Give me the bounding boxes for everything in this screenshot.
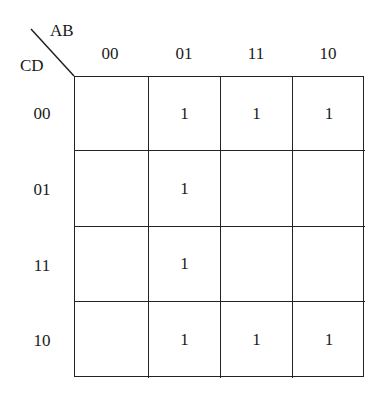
kmap-cell: [75, 227, 149, 302]
kmap-cell: 1: [149, 302, 221, 378]
kmap-cell: [221, 151, 293, 227]
col-label-2: 11: [220, 44, 292, 64]
row-label-0: 00: [22, 104, 62, 124]
kmap-cell: [75, 302, 149, 378]
row-label-3: 10: [22, 331, 62, 351]
kmap-cell: 1: [221, 77, 293, 151]
row-label-1: 01: [22, 180, 62, 200]
col-label-3: 10: [292, 44, 364, 64]
kmap-cell: 1: [293, 77, 365, 151]
col-label-1: 01: [148, 44, 220, 64]
kmap-cell: [293, 151, 365, 227]
row-variable-label: CD: [20, 57, 44, 74]
col-variable-label: AB: [50, 22, 74, 39]
karnaugh-map-grid: 1 1 1 1 1 1 1 1: [74, 76, 364, 377]
kmap-cell: 1: [293, 302, 365, 378]
row-label-2: 11: [22, 256, 62, 276]
kmap-cell: [75, 151, 149, 227]
kmap-cell: 1: [149, 151, 221, 227]
kmap-cell: 1: [221, 302, 293, 378]
kmap-cell: [293, 227, 365, 302]
kmap-cell: 1: [149, 227, 221, 302]
col-label-0: 00: [74, 44, 146, 64]
kmap-cell: [75, 77, 149, 151]
kmap-cell: 1: [149, 77, 221, 151]
kmap-cell: [221, 227, 293, 302]
